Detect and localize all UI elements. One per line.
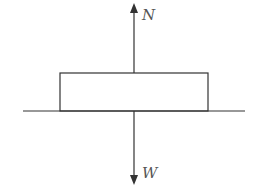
normal-force-arrowhead-icon — [130, 3, 138, 13]
weight-label: W — [142, 166, 157, 181]
free-body-diagram: N W — [0, 0, 255, 190]
block — [60, 73, 208, 111]
weight-arrowhead-icon — [130, 175, 138, 185]
normal-force-label: N — [142, 8, 155, 23]
diagram-canvas — [0, 0, 255, 190]
